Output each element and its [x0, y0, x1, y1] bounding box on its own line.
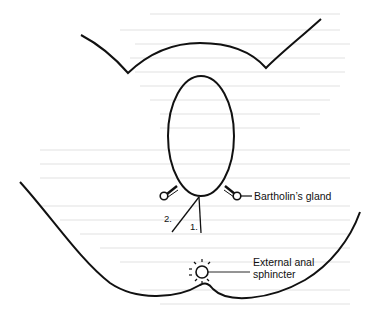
- incision-label-1: 1.: [190, 221, 198, 232]
- upper-contour: [81, 19, 321, 73]
- incision-label-2: 2.: [164, 213, 172, 224]
- incision-line-1-midline: [199, 197, 201, 233]
- external-anal-sphincter-label: External anal sphincter: [253, 256, 314, 280]
- sphincter-label-line-2: sphincter: [253, 268, 314, 280]
- bartholins-gland-right: [224, 186, 252, 200]
- sphincter-label-line-1: External anal: [253, 256, 314, 268]
- bartholins-gland-left: [160, 186, 178, 200]
- bartholins-gland-label: Bartholin’s gland: [254, 190, 331, 202]
